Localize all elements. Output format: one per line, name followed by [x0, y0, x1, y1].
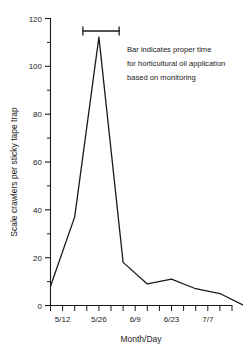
x-tick-label-6-23: 6/23 — [164, 315, 180, 324]
x-tick-label-6-9: 6/9 — [130, 315, 142, 324]
y-tick-label-20: 20 — [33, 254, 42, 263]
y-tick-label-100: 100 — [29, 62, 43, 71]
annotation-line-3: based on monitoring — [127, 73, 196, 82]
y-tick-label-60: 60 — [33, 158, 42, 167]
x-tick-label-7-7: 7/7 — [202, 315, 214, 324]
y-tick-label-0: 0 — [38, 302, 43, 311]
x-tick-label-5-12: 5/12 — [55, 315, 71, 324]
chart-figure: 120 100 80 60 40 20 0 — [0, 0, 243, 350]
y-tick-label-120: 120 — [29, 15, 43, 24]
x-axis-title: Month/Day — [120, 334, 162, 344]
y-tick-label-80: 80 — [33, 110, 42, 119]
y-tick-label-40: 40 — [33, 206, 42, 215]
x-tick-label-5-26: 5/26 — [91, 315, 107, 324]
annotation-line-2: for horticultural oil application — [127, 59, 225, 68]
annotation-line-1: Bar indicates proper time — [127, 45, 211, 54]
line-chart-svg: 120 100 80 60 40 20 0 — [0, 0, 243, 350]
y-axis-title: Scale crawlers per sticky tape trap — [9, 107, 19, 237]
